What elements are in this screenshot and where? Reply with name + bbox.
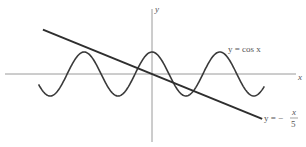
svg-text:5: 5: [291, 119, 296, 129]
svg-text:x: x: [291, 107, 296, 117]
line-label: y = − x 5: [264, 107, 298, 129]
y-axis-label: y: [154, 4, 159, 14]
svg-text:y = −: y = −: [264, 113, 283, 123]
cos-label: y = cos x: [228, 44, 261, 54]
x-axis-label: x: [297, 72, 302, 82]
figure: y x y = cos x y = − x 5: [0, 0, 306, 147]
